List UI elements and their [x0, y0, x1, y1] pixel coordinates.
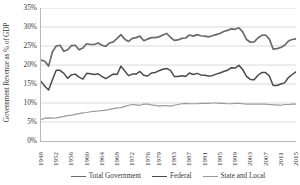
x-tick-label: 1972: [128, 152, 136, 166]
plot-area: [40, 8, 296, 142]
y-tick-label: 10%: [3, 99, 37, 107]
legend-item[interactable]: Federal: [152, 172, 192, 180]
legend-item[interactable]: Total Government: [71, 172, 141, 180]
x-tick-label: 1999: [231, 152, 239, 166]
y-tick-label: 25%: [3, 42, 37, 50]
x-tick-label: 1948: [37, 152, 45, 166]
x-tick-label: 1979: [155, 152, 163, 166]
x-tick-label: 1991: [201, 152, 209, 166]
x-axis-tick-labels: 1948195219561960196419681972197619791983…: [40, 142, 296, 168]
x-tick-label: 2003: [246, 152, 254, 166]
y-tick-label: 5%: [3, 118, 37, 126]
x-tick-label: 1983: [170, 152, 178, 166]
chart-container: Government Revenue as % of GDP 0%5%10%15…: [0, 0, 300, 185]
x-tick-label: 1968: [113, 152, 121, 166]
legend-label: Federal: [170, 172, 192, 180]
series-line: [41, 28, 296, 66]
legend-swatch: [203, 176, 218, 177]
x-tick-label: 1952: [52, 152, 60, 166]
y-tick-label: 20%: [3, 61, 37, 69]
x-tick-label: 2007: [262, 152, 270, 166]
y-tick-label: 35%: [3, 4, 37, 12]
y-tick-label: 15%: [3, 80, 37, 88]
x-tick-label: 2011: [277, 152, 285, 166]
y-tick-label: 0%: [3, 137, 37, 145]
y-axis-tick-labels: 0%5%10%15%20%25%30%35%: [0, 0, 37, 185]
legend-label: State and Local: [221, 172, 266, 180]
series-line: [41, 103, 296, 120]
series-line: [41, 65, 296, 90]
x-tick-label: 2015: [292, 152, 300, 166]
legend-swatch: [71, 176, 86, 177]
legend-swatch: [152, 176, 167, 177]
chart-legend: Total GovernmentFederalState and Local: [40, 170, 296, 182]
x-tick-label: 1987: [185, 152, 193, 166]
x-tick-label: 1960: [83, 152, 91, 166]
x-tick-label: 1976: [144, 152, 152, 166]
legend-item[interactable]: State and Local: [203, 172, 266, 180]
legend-label: Total Government: [89, 172, 141, 180]
x-tick-label: 1995: [216, 152, 224, 166]
y-tick-label: 30%: [3, 23, 37, 31]
plot-svg: [41, 8, 296, 141]
x-tick-label: 1964: [98, 152, 106, 166]
x-tick-label: 1956: [67, 152, 75, 166]
